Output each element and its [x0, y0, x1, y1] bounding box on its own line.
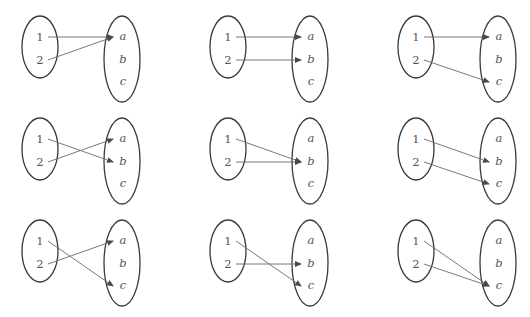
mapping-arrow — [424, 162, 489, 184]
domain-set-ellipse — [210, 220, 246, 282]
codomain-element-label: a — [308, 233, 315, 247]
domain-element-label: 1 — [36, 30, 43, 44]
domain-element-label: 1 — [224, 234, 231, 248]
codomain-element-label: b — [307, 52, 314, 66]
mapping-arrow — [424, 264, 489, 286]
codomain-element-label: c — [496, 176, 503, 190]
codomain-element-label: b — [119, 52, 126, 66]
domain-element-label: 1 — [36, 132, 43, 146]
domain-element-label: 2 — [224, 53, 231, 67]
domain-set-ellipse — [398, 220, 434, 282]
mapping-panel: 12abc — [398, 118, 516, 204]
codomain-element-label: b — [307, 256, 314, 270]
mapping-panel: 12abc — [22, 220, 140, 306]
codomain-element-label: c — [308, 74, 315, 88]
mapping-panel: 12abc — [22, 16, 140, 102]
mapping-panel: 12abc — [210, 118, 328, 204]
domain-set-ellipse — [22, 16, 58, 78]
codomain-element-label: a — [496, 131, 503, 145]
domain-set-ellipse — [398, 118, 434, 180]
codomain-element-label: a — [120, 131, 127, 145]
mapping-panel: 12abc — [22, 118, 140, 204]
domain-element-label: 2 — [412, 257, 419, 271]
codomain-element-label: b — [495, 52, 502, 66]
domain-set-ellipse — [210, 118, 246, 180]
mapping-arrow — [48, 241, 113, 286]
codomain-element-label: c — [308, 278, 315, 292]
codomain-element-label: a — [308, 29, 315, 43]
codomain-element-label: c — [496, 74, 503, 88]
domain-set-ellipse — [398, 16, 434, 78]
codomain-element-label: a — [120, 29, 127, 43]
codomain-element-label: b — [495, 154, 502, 168]
codomain-element-label: c — [308, 176, 315, 190]
codomain-element-label: b — [495, 256, 502, 270]
domain-element-label: 2 — [224, 155, 231, 169]
mapping-panel: 12abc — [210, 220, 328, 306]
codomain-element-label: a — [496, 233, 503, 247]
domain-element-label: 2 — [36, 155, 43, 169]
mapping-panel: 12abc — [398, 220, 516, 306]
domain-element-label: 1 — [224, 132, 231, 146]
domain-element-label: 1 — [412, 30, 419, 44]
codomain-element-label: b — [119, 154, 126, 168]
domain-element-label: 2 — [36, 257, 43, 271]
mapping-panel: 12abc — [210, 16, 328, 102]
function-mapping-diagram-grid: 12abc12abc12abc12abc12abc12abc12abc12abc… — [0, 0, 530, 317]
codomain-element-label: c — [120, 176, 127, 190]
domain-element-label: 2 — [36, 53, 43, 67]
codomain-element-label: c — [120, 278, 127, 292]
domain-element-label: 1 — [412, 234, 419, 248]
codomain-element-label: b — [119, 256, 126, 270]
domain-element-label: 2 — [224, 257, 231, 271]
domain-element-label: 1 — [412, 132, 419, 146]
domain-element-label: 1 — [224, 30, 231, 44]
codomain-element-label: a — [120, 233, 127, 247]
domain-set-ellipse — [22, 220, 58, 282]
mapping-arrow — [424, 60, 489, 82]
mapping-arrow — [236, 241, 301, 286]
mapping-arrow — [424, 241, 489, 286]
codomain-element-label: a — [496, 29, 503, 43]
mapping-panel: 12abc — [398, 16, 516, 102]
domain-element-label: 2 — [412, 53, 419, 67]
domain-element-label: 1 — [36, 234, 43, 248]
codomain-element-label: c — [496, 278, 503, 292]
codomain-element-label: c — [120, 74, 127, 88]
codomain-element-label: b — [307, 154, 314, 168]
domain-set-ellipse — [210, 16, 246, 78]
domain-element-label: 2 — [412, 155, 419, 169]
domain-set-ellipse — [22, 118, 58, 180]
codomain-element-label: a — [308, 131, 315, 145]
